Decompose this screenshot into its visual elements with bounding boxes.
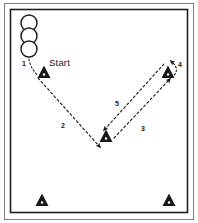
step-label-5: 5 bbox=[115, 100, 119, 107]
field-svg bbox=[0, 0, 198, 223]
player-queue-circle-3 bbox=[21, 41, 37, 57]
field-boundary bbox=[11, 10, 188, 213]
drill-diagram: Start 1 2 3 4 5 bbox=[0, 0, 198, 223]
step-label-1: 1 bbox=[22, 60, 26, 67]
start-label: Start bbox=[49, 58, 70, 68]
step-label-4: 4 bbox=[178, 61, 182, 68]
step-label-2: 2 bbox=[61, 122, 65, 129]
step-label-3: 3 bbox=[141, 125, 145, 132]
